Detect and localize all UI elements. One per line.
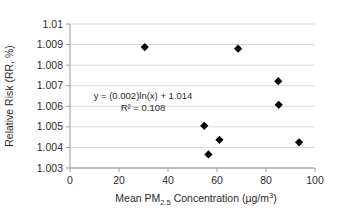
data-point: [275, 101, 283, 109]
x-tick-label: 80: [260, 174, 272, 186]
data-point: [295, 138, 303, 146]
data-point: [215, 136, 223, 144]
y-tick-label: 1.007: [37, 79, 63, 91]
x-tick-label: 60: [211, 174, 223, 186]
data-point: [200, 122, 208, 130]
trendline-r-squared-label: R² = 0.108: [121, 102, 166, 113]
y-tick-label: 1.008: [37, 59, 63, 71]
x-axis-title-suffix: ): [273, 192, 277, 204]
data-point: [234, 45, 242, 53]
y-tick-marks: [66, 24, 70, 168]
y-tick-label: 1.004: [37, 141, 63, 153]
y-tick-label: 1.006: [37, 100, 63, 112]
data-point: [204, 150, 212, 158]
scatter-plot: 1.0031.0041.0051.0061.0071.0081.0091.01 …: [0, 0, 340, 213]
x-tick-marks: [70, 168, 315, 172]
y-tick-label: 1.01: [43, 18, 64, 30]
x-tick-label: 20: [113, 174, 125, 186]
x-axis-title: Mean PM2.5 Concentration (µg/m3): [115, 191, 276, 207]
trendline-equation-label: y = (0.002)ln(x) + 1.014: [94, 90, 193, 101]
y-tick-labels: 1.0031.0041.0051.0061.0071.0081.0091.01: [37, 18, 63, 174]
x-tick-label: 0: [67, 174, 73, 186]
x-axis-title-middle: Concentration (µg/m: [171, 192, 270, 204]
y-tick-label: 1.009: [37, 38, 63, 50]
x-axis-title-prefix: Mean PM: [115, 192, 160, 204]
x-tick-label: 40: [162, 174, 174, 186]
y-tick-label: 1.003: [37, 162, 63, 174]
x-axis-title-subscript: 2.5: [160, 198, 170, 207]
chart-container: 1.0031.0041.0051.0061.0071.0081.0091.01 …: [0, 0, 340, 213]
y-axis-title: Relative Risk (RR, %): [3, 45, 15, 147]
x-tick-labels: 020406080100: [67, 174, 324, 186]
y-tick-label: 1.005: [37, 120, 63, 132]
data-point: [274, 77, 282, 85]
x-tick-label: 100: [306, 174, 324, 186]
